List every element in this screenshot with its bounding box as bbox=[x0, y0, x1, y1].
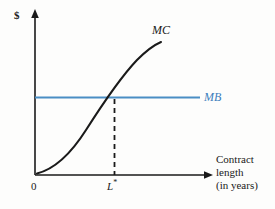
optimum-x-label: L* bbox=[107, 181, 117, 192]
x-axis-title-line-3: (in years) bbox=[216, 179, 258, 192]
origin-label: 0 bbox=[31, 181, 37, 192]
x-axis-title-line-1: Contract bbox=[216, 153, 258, 166]
x-axis-title: Contract length (in years) bbox=[216, 153, 258, 192]
y-axis-title: $ bbox=[14, 10, 20, 21]
x-axis-arrowhead bbox=[204, 171, 213, 179]
mb-line-label: MB bbox=[204, 91, 221, 103]
mc-curve bbox=[37, 42, 161, 174]
mc-curve-label: MC bbox=[152, 24, 170, 36]
x-axis-title-line-2: length bbox=[216, 166, 258, 179]
economics-figure: $ MC MB 0 L* Contract length (in years) bbox=[0, 0, 275, 209]
y-axis-arrowhead bbox=[31, 9, 39, 18]
optimum-x-asterisk: * bbox=[113, 178, 117, 187]
